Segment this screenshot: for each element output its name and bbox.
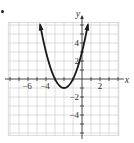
axes (5, 15, 124, 139)
x-axis-label: x (124, 74, 130, 85)
y-axis-label: y (75, 8, 81, 19)
x-tick-label: −4 (40, 81, 50, 91)
parabola-graph: −6−4242−2−4xy (0, 0, 134, 143)
y-tick-label: −4 (69, 110, 79, 120)
x-tick-label: −6 (22, 81, 32, 91)
y-tick-label: 4 (75, 38, 80, 48)
y-axis-arrow-icon (80, 15, 84, 19)
arrow-right-icon (84, 23, 89, 31)
x-tick-label: 2 (98, 81, 103, 91)
arrow-left-icon (39, 23, 44, 31)
y-tick-label: −2 (69, 92, 79, 102)
